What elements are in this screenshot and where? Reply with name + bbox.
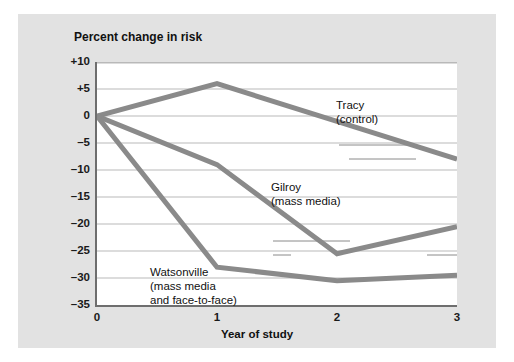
y-tick-label: 0 [84,110,90,122]
series-label-tracy-line1: Tracy [336,98,378,112]
y-tick-label: –5 [77,137,90,149]
figure-panel: Percent change in risk +10+50–5–10–15–20… [18,14,496,348]
gridlines [97,62,457,278]
series-label-watsonville-line2: (mass media [150,279,237,293]
series-label-watsonville-line3: and face-to-face) [150,293,237,307]
x-tick-label: 0 [94,312,100,324]
series-label-watsonville: Watsonville (mass media and face-to-face… [150,265,237,307]
x-axis-title: Year of study [18,328,496,340]
series-line [97,84,457,160]
y-axis-title: Percent change in risk [74,30,202,44]
series-label-watsonville-line1: Watsonville [150,265,237,279]
series-label-gilroy-line2: (mass media) [271,194,341,208]
series-label-gilroy-line1: Gilroy [271,180,341,194]
x-axis-tick-labels: 0123 [95,308,459,326]
y-tick-label: +10 [70,56,90,68]
y-tick-label: –20 [71,218,90,230]
x-tick-label: 2 [334,312,340,324]
y-tick-label: –30 [71,272,90,284]
y-tick-label: –15 [71,191,90,203]
y-tick-label: –10 [71,164,90,176]
x-tick-label: 1 [214,312,220,324]
y-tick-label: +5 [77,83,90,95]
series-label-tracy: Tracy (control) [336,98,378,126]
series-label-tracy-line2: (control) [336,112,378,126]
y-tick-label: –25 [71,245,90,257]
x-tick-label: 3 [454,312,460,324]
y-axis-tick-labels: +10+50–5–10–15–20–25–30–35 [40,62,90,305]
series-label-gilroy: Gilroy (mass media) [271,180,341,208]
y-tick-label: –35 [71,299,90,311]
